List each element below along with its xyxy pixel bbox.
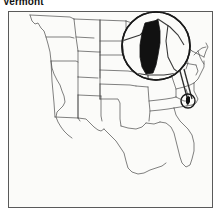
map-frame xyxy=(8,11,213,208)
vermont-locator-figure: Vermont xyxy=(0,0,222,220)
us-map-svg xyxy=(8,11,213,208)
figure-title: Vermont xyxy=(3,0,44,7)
